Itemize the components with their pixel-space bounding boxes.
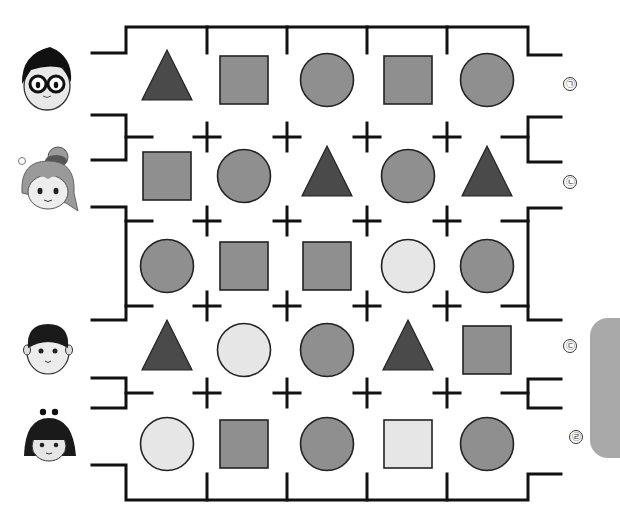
girl-with-bun-avatar [19, 147, 79, 211]
row-label-4: ㉣ [569, 430, 583, 444]
dark-triangle-r4c4 [383, 320, 433, 370]
mid-square-r3c2 [220, 242, 268, 290]
left-bracket [92, 115, 126, 160]
mid-square-r1c2 [220, 56, 268, 104]
mid-circle-r1c3 [301, 54, 354, 107]
row-label-2: ㉡ [563, 175, 577, 189]
mid-circle-r1c5 [461, 54, 514, 107]
light-square-r5c4 [384, 420, 432, 468]
side-tab-handle[interactable] [590, 318, 620, 458]
mid-square-r2c1 [143, 152, 191, 200]
mid-circle-r3c5 [461, 240, 514, 293]
right-bracket [528, 208, 561, 320]
dark-triangle-r2c5 [462, 146, 512, 196]
dark-triangle-r2c3 [302, 146, 352, 196]
mid-square-r1c4 [384, 56, 432, 104]
left-bracket [92, 207, 126, 320]
dark-triangle-r1c1 [142, 50, 192, 100]
boy-with-glasses-avatar [22, 47, 71, 110]
dark-triangle-r4c1 [142, 320, 192, 370]
mid-circle-r3c1 [141, 240, 194, 293]
mid-circle-r4c3 [301, 324, 354, 377]
right-bracket [528, 379, 561, 408]
top-wall [92, 27, 561, 55]
light-circle-r4c2 [218, 324, 271, 377]
mid-circle-r5c3 [301, 418, 354, 471]
left-bracket [92, 378, 126, 408]
light-circle-r5c1 [141, 418, 194, 471]
round-faced-boy-avatar [24, 324, 73, 374]
mid-circle-r2c4 [382, 150, 435, 203]
girl-with-headband-avatar [24, 409, 76, 461]
mid-circle-r5c5 [461, 418, 514, 471]
light-circle-r3c4 [382, 240, 435, 293]
mid-circle-r2c2 [218, 150, 271, 203]
right-bracket [528, 117, 561, 162]
row-label-1: ㉠ [563, 77, 577, 91]
mid-square-r4c5 [463, 326, 511, 374]
mid-square-r3c3 [303, 242, 351, 290]
row-label-3: ㉢ [563, 339, 577, 353]
mid-square-r5c2 [220, 420, 268, 468]
